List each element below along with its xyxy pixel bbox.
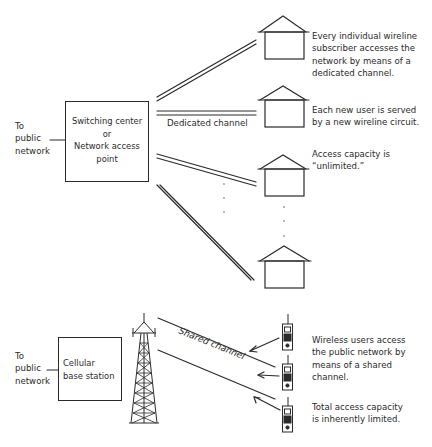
- switching-center-line-1: Switching center: [66, 115, 148, 128]
- arrow-icon-1: [250, 338, 279, 352]
- phone-icon-2: [283, 355, 293, 390]
- house-icon-3: [258, 155, 309, 196]
- phone-icon-3: [283, 397, 293, 432]
- switching-center-box: Switching center or Network access point: [65, 101, 149, 182]
- dedicated-line-4: [157, 185, 254, 280]
- wireless-note-2: Total access capacity is inherently limi…: [312, 401, 403, 426]
- switching-center-line-2: or: [66, 128, 148, 141]
- dedicated-line-3: [157, 154, 256, 186]
- to-public-network-label-top: To public network: [15, 120, 50, 157]
- arrow-icon-3: [254, 397, 280, 410]
- wireline-note-3: Access capacity is “unlimited.”: [312, 148, 390, 173]
- shared-channel-lower-line: [158, 350, 275, 399]
- house-icon-1: [258, 16, 309, 59]
- switching-center-line-3: Network access: [66, 140, 148, 153]
- dedicated-channel-label: Dedicated channel: [167, 117, 248, 129]
- wireline-note-1: Every individual wireline subscriber acc…: [312, 30, 417, 80]
- cell-tower-icon: [129, 313, 159, 423]
- base-station-line-2: base station: [63, 370, 114, 383]
- wireless-note-1: Wireless users access the public network…: [312, 334, 406, 384]
- phone-icon-1: [283, 314, 293, 350]
- cellular-base-station-box: Cellular base station: [58, 337, 122, 401]
- shared-channel-label: Shared channel: [177, 326, 246, 362]
- to-public-network-label-bottom: To public network: [15, 350, 50, 387]
- base-station-line-1: Cellular: [63, 357, 114, 370]
- house-icon-4: [258, 246, 311, 288]
- house-icon-2: [258, 86, 309, 127]
- wireline-note-2: Each new user is served by a new wirelin…: [312, 104, 419, 129]
- dedicated-line-1: [157, 40, 256, 101]
- ellipsis-dots: [223, 183, 285, 237]
- switching-center-line-4: point: [66, 153, 148, 166]
- arrow-icon-2: [258, 372, 279, 378]
- dedicated-line-2: [157, 111, 256, 115]
